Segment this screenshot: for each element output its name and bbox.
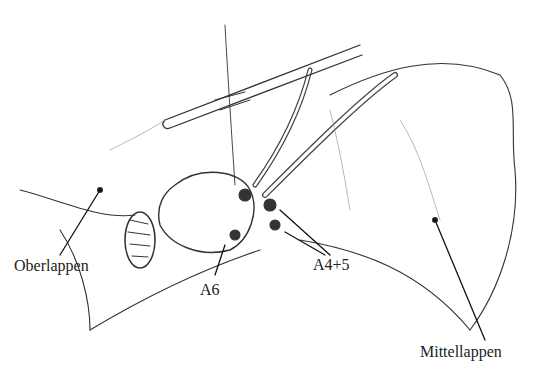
label-upper-lobe: Oberlappen <box>14 257 89 275</box>
illustration: Oberlappen A6 A4+5 Mittellappen <box>0 0 536 373</box>
label-middle-lobe: Mittellappen <box>420 343 502 361</box>
label-a6: A6 <box>200 281 220 299</box>
label-a45: A4+5 <box>313 256 350 274</box>
line-drawing <box>0 0 536 373</box>
